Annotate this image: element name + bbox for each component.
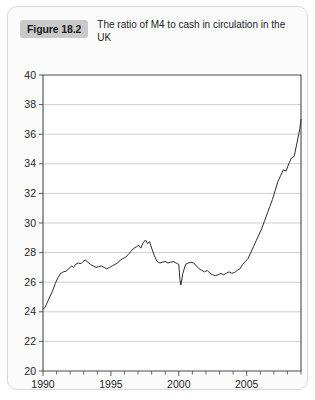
figure-number-badge: Figure 18.2	[20, 20, 88, 38]
y-tick-label: 40	[24, 69, 36, 81]
y-tick-label: 36	[24, 128, 36, 140]
chart-plot-area: 2022242628303234363840 1990199520002005	[8, 57, 309, 389]
figure-card: Figure 18.2 The ratio of M4 to cash in c…	[7, 6, 308, 390]
x-tick-label: 1995	[99, 378, 123, 389]
y-tick-label: 28	[24, 246, 36, 258]
x-axis-tick-labels: 1990199520002005	[31, 378, 258, 389]
x-tick-label: 1990	[31, 378, 55, 389]
y-tick-label: 24	[24, 305, 36, 317]
y-tick-label: 26	[24, 276, 36, 288]
y-tick-label: 20	[24, 365, 36, 377]
y-tick-label: 22	[24, 335, 36, 347]
y-tick-label: 38	[24, 98, 36, 110]
y-tick-label: 32	[24, 187, 36, 199]
y-axis-tick-labels: 2022242628303234363840	[24, 69, 36, 377]
x-axis-minor-ticks	[43, 371, 301, 376]
x-tick-label: 2000	[167, 378, 191, 389]
y-tick-label: 30	[24, 217, 36, 229]
y-axis-tick-marks	[39, 75, 43, 371]
figure-caption-bar: Figure 18.2 The ratio of M4 to cash in c…	[8, 13, 309, 57]
line-chart: 2022242628303234363840 1990199520002005	[8, 57, 309, 389]
y-tick-label: 34	[24, 157, 36, 169]
figure-caption-text: The ratio of M4 to cash in circulation i…	[97, 19, 293, 44]
x-tick-label: 2005	[235, 378, 259, 389]
